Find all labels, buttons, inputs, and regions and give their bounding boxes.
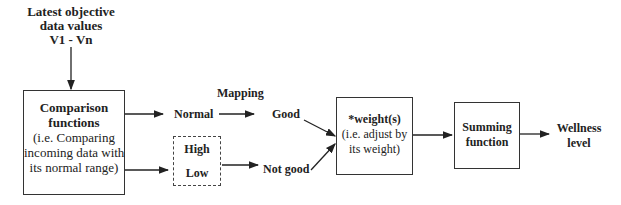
weight-title: *weight(s) [337, 112, 412, 127]
comparison-title: functions [24, 115, 124, 130]
input-line: V1 - Vn [11, 33, 131, 47]
summing-function-box: Summing function [454, 102, 520, 169]
input-label: Latest objective data values V1 - Vn [11, 5, 131, 47]
wellness-level-label: Wellness level [553, 121, 605, 151]
good-label: Good [272, 107, 300, 121]
normal-label: Normal [174, 107, 213, 121]
weight-desc: (i.e. adjust by [337, 127, 412, 142]
summing-title: function [455, 135, 519, 150]
comparison-functions-box: Comparison functions (i.e. Comparing inc… [23, 90, 125, 195]
comparison-desc: (i.e. Comparing [24, 130, 124, 145]
weight-desc: its weight) [337, 142, 412, 157]
not-good-label: Not good [263, 162, 309, 176]
high-low-box: High Low [173, 136, 221, 186]
mapping-label: Mapping [217, 86, 264, 100]
output-line: level [553, 136, 605, 151]
low-label: Low [174, 166, 220, 180]
weight-box: *weight(s) (i.e. adjust by its weight) [336, 97, 413, 175]
input-line: data values [11, 19, 131, 33]
output-line: Wellness [553, 121, 605, 136]
high-label: High [174, 142, 220, 156]
arrow-notgood-to-weight [311, 144, 335, 170]
input-line: Latest objective [11, 5, 131, 19]
summing-title: Summing [455, 120, 519, 135]
comparison-title: Comparison [24, 100, 124, 115]
arrow-good-to-weight [304, 120, 335, 136]
comparison-desc: incoming data with [24, 145, 124, 160]
comparison-desc: its normal range) [24, 160, 124, 175]
